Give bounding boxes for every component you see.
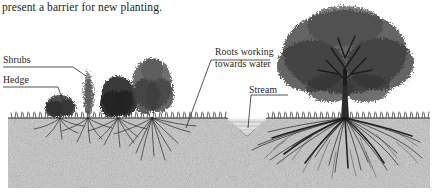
label-roots-line2: towards water: [215, 58, 271, 69]
label-shrubs: Shrubs: [3, 54, 31, 65]
label-roots-line1: Roots working: [215, 46, 274, 57]
hedge-plant: [45, 95, 76, 117]
label-stream: Stream: [249, 84, 277, 95]
cross-section-artwork: [0, 0, 434, 194]
label-hedge: Hedge: [3, 74, 29, 85]
shrub-columnar: [83, 70, 94, 118]
tree-large: [277, 6, 414, 118]
soil-cross-section: [8, 118, 430, 188]
illustration-figure: present a barrier for new planting.: [0, 0, 434, 194]
shrub-round-dark: [100, 76, 137, 117]
shrub-tall-feathery: [132, 58, 174, 114]
